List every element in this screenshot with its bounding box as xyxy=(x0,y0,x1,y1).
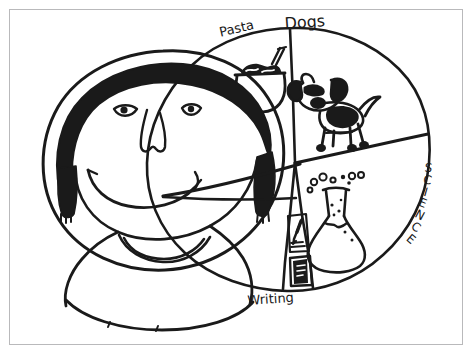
page-root: Pasta Dogs Writing S C I E N C E xyxy=(0,0,473,358)
mouth xyxy=(88,170,194,208)
right-eye xyxy=(182,104,201,115)
slice-label-writing: Writing xyxy=(247,291,294,307)
self-portrait-drawing xyxy=(43,51,284,331)
drawing-canvas xyxy=(0,0,473,358)
flask-drawing xyxy=(308,172,365,272)
portrait-outline xyxy=(43,51,284,270)
shoulders xyxy=(65,232,118,306)
slice-label-dogs: Dogs xyxy=(284,13,326,32)
dog-drawing xyxy=(288,74,380,152)
left-eye xyxy=(114,105,137,116)
slice-label-science: S C I E N C E xyxy=(424,163,433,245)
